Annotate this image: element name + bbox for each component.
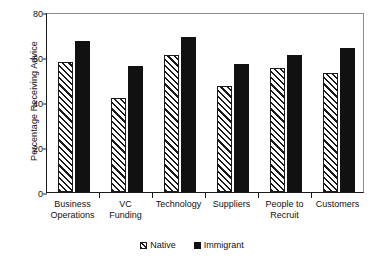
x-axis-tick-mark xyxy=(205,193,206,198)
bar-native xyxy=(164,55,179,192)
bar-native xyxy=(270,68,285,192)
bar-group xyxy=(153,14,206,192)
bar-group xyxy=(206,14,259,192)
bar-immigrant xyxy=(287,55,302,192)
bar-immigrant xyxy=(340,48,355,192)
legend-label: Immigrant xyxy=(204,240,244,250)
bar-group xyxy=(47,14,100,192)
x-axis-category-label-line: Business xyxy=(46,199,99,210)
x-axis-category-label-line: Recruit xyxy=(258,210,311,221)
x-axis-category-label: BusinessOperations xyxy=(46,199,99,221)
legend-entry-immigrant[interactable]: Immigrant xyxy=(194,240,244,250)
x-axis-category-label-line: Operations xyxy=(46,210,99,221)
x-axis-category-label: Customers xyxy=(311,199,364,210)
x-axis-tick-mark xyxy=(311,193,312,198)
x-axis-tick-mark xyxy=(258,193,259,198)
bar-group xyxy=(312,14,365,192)
bar-chart-figure: Percentage Receiving Advice 020406080 Bu… xyxy=(0,0,384,261)
bar-immigrant xyxy=(75,41,90,192)
x-axis-category-label-line: VC xyxy=(99,199,152,210)
x-axis-category-label-line: People to xyxy=(258,199,311,210)
bar-native xyxy=(217,86,232,192)
legend-swatch-immigrant-icon xyxy=(194,242,201,249)
legend-entry-native[interactable]: Native xyxy=(140,240,176,250)
x-axis-tick-mark xyxy=(152,193,153,198)
legend-label: Native xyxy=(150,240,176,250)
x-axis-category-label: VCFunding xyxy=(99,199,152,221)
x-axis-category-label-line: Customers xyxy=(311,199,364,210)
x-axis-category-label-line: Funding xyxy=(99,210,152,221)
bar-immigrant xyxy=(234,64,249,192)
bar-group xyxy=(259,14,312,192)
x-axis-category-label: Suppliers xyxy=(205,199,258,210)
bar-native xyxy=(111,98,126,193)
x-axis-category-label-line: Technology xyxy=(152,199,205,210)
bar-immigrant xyxy=(128,66,143,192)
bar-native xyxy=(58,62,73,193)
x-axis-category-label-line: Suppliers xyxy=(205,199,258,210)
bar-group xyxy=(100,14,153,192)
plot-area: 020406080 xyxy=(46,13,364,193)
x-axis-category-label: Technology xyxy=(152,199,205,210)
x-axis-category-label: People toRecruit xyxy=(258,199,311,221)
y-axis-tick-mark xyxy=(43,194,47,195)
bar-series-container xyxy=(47,14,363,192)
bar-immigrant xyxy=(181,37,196,192)
chart-legend: NativeImmigrant xyxy=(0,240,384,250)
x-axis-tick-mark xyxy=(99,193,100,198)
bar-native xyxy=(323,73,338,192)
legend-swatch-native-icon xyxy=(140,242,147,249)
